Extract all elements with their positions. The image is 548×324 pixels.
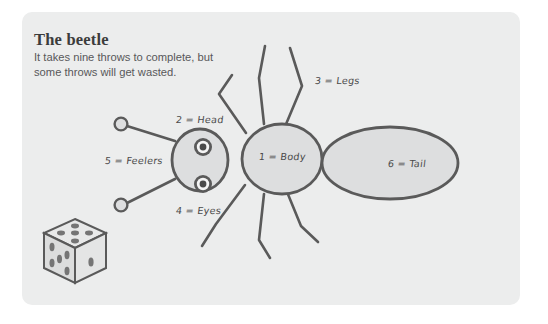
label-legs: 3 = Legs — [314, 75, 360, 86]
feeler-knob-upper — [115, 118, 128, 131]
leg-upper-middle — [259, 46, 265, 124]
die-pips-right — [88, 257, 93, 266]
label-feelers: 5 = Feelers — [104, 155, 163, 166]
leg-lower-right — [285, 187, 318, 242]
beetle-card-page: The beetle It takes nine throws to compl… — [0, 0, 548, 324]
beetle-eye-upper — [194, 138, 212, 156]
label-tail: 6 = Tail — [387, 158, 426, 169]
beetle-eye-lower — [194, 175, 212, 193]
leg-upper-right — [284, 48, 302, 129]
beetle-diagram — [0, 0, 548, 324]
feeler-upper — [127, 126, 175, 141]
feeler-lower — [127, 179, 175, 203]
label-body: 1 = Body — [258, 151, 306, 162]
leg-lower-middle — [259, 194, 270, 258]
isometric-die — [44, 219, 106, 283]
label-eyes: 4 = Eyes — [175, 205, 222, 216]
label-head: 2 = Head — [175, 114, 224, 125]
feeler-knob-lower — [115, 199, 128, 212]
